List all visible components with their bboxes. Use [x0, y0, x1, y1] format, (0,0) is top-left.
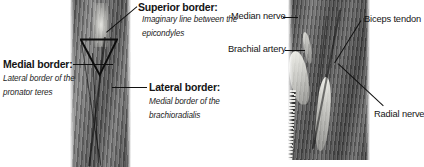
lateral-border-heading: Lateral border:: [149, 82, 220, 93]
leader-line-medial-border: [73, 64, 113, 65]
leader-line-brachial-artery: [285, 50, 305, 51]
left-specimen-photo: [70, 0, 131, 167]
lateral-border-subtext-line-1: Medial border of the: [149, 98, 220, 106]
leader-line-lateral-border: [112, 87, 147, 88]
medial-border-subtext-line-2: pronator teres: [3, 89, 53, 97]
left-photo-edge-fade: [70, 0, 131, 167]
biceps-tendon-label: Biceps tendon: [364, 15, 421, 24]
superior-border-subtext-line-1: Imaginary line between the: [142, 16, 237, 24]
medial-border-heading: Medial border:: [3, 59, 73, 70]
brachial-artery-label: Brachial artery: [228, 45, 286, 54]
lateral-border-subtext-line-2: brachioradialis: [149, 112, 200, 120]
anatomy-figure: Superior border: Imaginary line between …: [0, 0, 424, 167]
superior-border-heading: Superior border:: [138, 2, 218, 13]
superior-border-subtext-line-2: epicondyles: [142, 30, 184, 38]
radial-nerve-label: Radial nerve: [374, 110, 424, 119]
medial-border-subtext-line-1: Lateral border of the: [3, 75, 75, 83]
median-nerve-label: Median nerve: [231, 12, 286, 21]
